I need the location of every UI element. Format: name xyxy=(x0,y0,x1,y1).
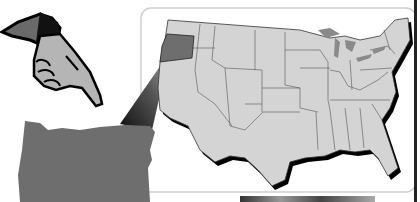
oregon-on-map xyxy=(160,34,194,62)
photo-strip xyxy=(240,196,375,202)
pointing-hand xyxy=(2,12,102,106)
scene-svg xyxy=(0,0,420,202)
oregon-enlarged xyxy=(18,121,155,202)
illustration xyxy=(0,0,420,202)
